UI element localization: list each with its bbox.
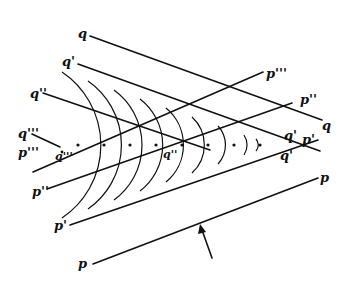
label-p1-apex: p' — [302, 132, 315, 147]
label-q-right: q — [322, 118, 331, 133]
label-q-top: q — [78, 26, 87, 41]
label-q2-center: q'' — [163, 148, 177, 161]
label-p-left: p — [78, 256, 87, 271]
label-p3-left: p''' — [18, 145, 39, 160]
line-p2 — [47, 103, 292, 189]
label-q3-center: q''' — [55, 150, 73, 163]
label-p2-right: p'' — [300, 92, 317, 107]
line-q — [90, 36, 322, 120]
label-p1-left: p' — [54, 218, 67, 233]
label-p-right: p — [320, 170, 329, 185]
label-q3-left: q''' — [18, 126, 39, 141]
line-p — [93, 178, 318, 264]
label-q1-apex-upper: q' — [284, 128, 297, 143]
label-q2-left: q'' — [30, 86, 47, 101]
propagation-arrow-icon — [198, 224, 212, 258]
label-q1-apex-lower: q' — [280, 148, 293, 163]
label-q1-left: q' — [62, 54, 75, 69]
label-p3-right: p''' — [266, 66, 287, 81]
huygens-wavefront-diagram: q q q' p''' p'' q' p' q' q'' q''' p''' q… — [0, 0, 348, 286]
label-p2-left: p'' — [32, 184, 49, 199]
